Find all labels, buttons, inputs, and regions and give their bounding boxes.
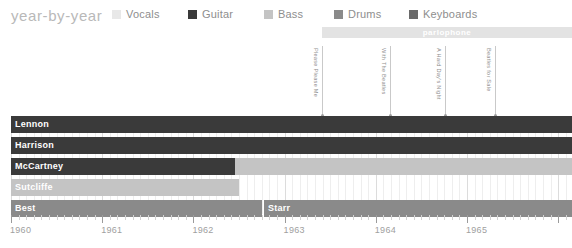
- axis-tick: [26, 215, 27, 220]
- axis-tick: [140, 215, 141, 220]
- axis-year-label: 1960: [10, 225, 31, 235]
- axis-tick: [117, 215, 118, 220]
- axis-tick: [269, 215, 270, 220]
- label-band-text: parlophone: [423, 28, 472, 37]
- axis-tick: [551, 215, 552, 220]
- annotation-label: Beatles for Sale: [486, 48, 492, 92]
- axis-tick: [209, 215, 210, 220]
- axis-tick: [376, 215, 377, 223]
- timeline-row[interactable]: Harrison: [11, 137, 572, 154]
- axis-tick: [475, 215, 476, 220]
- timeline-segment-guitar[interactable]: [11, 116, 572, 133]
- annotation-line: [495, 46, 496, 116]
- legend-label: Keyboards: [423, 8, 477, 20]
- annotation-label: Please Please Me: [313, 48, 319, 97]
- row-label-mccartney: McCartney: [15, 158, 63, 175]
- axis-tick: [330, 215, 331, 220]
- axis-tick: [49, 215, 50, 220]
- axis-tick: [133, 215, 134, 220]
- axis-tick: [543, 215, 544, 220]
- axis-tick: [437, 215, 438, 220]
- legend-swatch-icon: [334, 10, 343, 19]
- axis-tick: [292, 215, 293, 220]
- axis-tick: [452, 215, 453, 220]
- axis-tick: [558, 215, 559, 223]
- timeline-row[interactable]: McCartney: [11, 158, 572, 175]
- legend-item-guitar[interactable]: Guitar: [188, 8, 233, 20]
- axis-tick: [171, 215, 172, 220]
- axis-tick: [285, 215, 286, 223]
- axis-tick: [497, 215, 498, 220]
- axis-tick: [566, 215, 567, 220]
- plot-area: LennonHarrisonMcCartneySutcliffeBestStar…: [11, 116, 572, 214]
- axis-tick: [254, 215, 255, 220]
- label-band-parlophone: parlophone: [322, 27, 572, 38]
- axis-tick: [399, 215, 400, 220]
- axis-tick: [178, 215, 179, 220]
- legend-swatch-icon: [188, 10, 197, 19]
- axis-tick: [444, 215, 445, 220]
- axis-tick: [148, 215, 149, 220]
- timeline-row[interactable]: Sutcliffe: [11, 179, 572, 196]
- axis-tick: [338, 215, 339, 220]
- axis-tick: [353, 215, 354, 220]
- axis-tick: [102, 215, 103, 223]
- axis-tick: [34, 215, 35, 220]
- timeline-segment-bass[interactable]: [235, 158, 572, 175]
- year-by-year-chart: year-by-year VocalsGuitarBassDrumsKeyboa…: [0, 0, 572, 248]
- axis-tick: [391, 215, 392, 220]
- axis-tick: [383, 215, 384, 220]
- row-label-sutcliffe: Sutcliffe: [15, 179, 53, 196]
- legend-swatch-icon: [112, 10, 121, 19]
- axis-tick: [216, 215, 217, 220]
- timeline-row[interactable]: Lennon: [11, 116, 572, 133]
- axis-tick: [513, 215, 514, 220]
- timeline-segment-guitar[interactable]: [11, 137, 572, 154]
- page-title: year-by-year: [11, 7, 102, 24]
- axis-tick: [11, 215, 12, 223]
- annotation-label: A Hard Day's Night: [436, 48, 442, 100]
- axis-tick: [262, 215, 263, 220]
- axis-tick: [361, 215, 362, 220]
- axis-year-label: 1962: [192, 225, 213, 235]
- axis-tick: [482, 215, 483, 220]
- legend-item-keyboards[interactable]: Keyboards: [409, 8, 477, 20]
- axis-tick: [64, 215, 65, 220]
- x-axis: 196019611962196319641965: [11, 215, 572, 245]
- annotation-line: [390, 46, 391, 116]
- axis-tick: [307, 215, 308, 220]
- axis-tick: [528, 215, 529, 220]
- axis-tick: [110, 215, 111, 220]
- row-label-harrison: Harrison: [15, 137, 54, 154]
- axis-tick: [520, 215, 521, 220]
- annotation-line: [445, 46, 446, 116]
- axis-tick: [231, 215, 232, 220]
- axis-tick: [155, 215, 156, 220]
- axis-tick: [201, 215, 202, 220]
- axis-tick: [79, 215, 80, 220]
- legend-swatch-icon: [264, 10, 273, 19]
- legend-item-drums[interactable]: Drums: [334, 8, 381, 20]
- legend-label: Vocals: [126, 8, 160, 20]
- axis-tick: [186, 215, 187, 220]
- axis-tick: [368, 215, 369, 220]
- legend-label: Drums: [348, 8, 381, 20]
- axis-tick: [467, 215, 468, 223]
- axis-tick: [535, 215, 536, 220]
- axis-tick: [239, 215, 240, 220]
- axis-tick: [277, 215, 278, 220]
- legend-item-vocals[interactable]: Vocals: [112, 8, 160, 20]
- axis-year-label: 1965: [466, 225, 487, 235]
- axis-tick: [414, 215, 415, 220]
- legend-item-bass[interactable]: Bass: [264, 8, 303, 20]
- annotation-line: [322, 46, 323, 116]
- axis-tick: [429, 215, 430, 220]
- annotation-label: With The Beatles: [381, 48, 387, 95]
- axis-tick: [125, 215, 126, 220]
- axis-tick: [247, 215, 248, 220]
- axis-tick: [41, 215, 42, 220]
- axis-tick: [459, 215, 460, 220]
- axis-tick: [87, 215, 88, 220]
- legend-swatch-icon: [409, 10, 418, 19]
- axis-year-label: 1961: [101, 225, 122, 235]
